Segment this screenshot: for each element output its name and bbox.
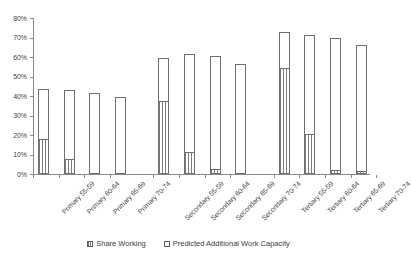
legend-swatch-hatched-icon [87, 241, 93, 247]
y-axis-tick-label: 70% [3, 34, 27, 41]
y-axis-tick-label: 30% [3, 112, 27, 119]
bar-group[interactable] [115, 97, 126, 174]
bar-group[interactable] [184, 54, 195, 174]
x-axis-tick-mark [325, 175, 326, 178]
bar-segment-share-working[interactable] [330, 170, 341, 174]
bar-group[interactable] [38, 89, 49, 174]
bar-segment-share-working[interactable] [184, 152, 195, 174]
bar-segment-share-working[interactable] [158, 101, 169, 174]
bar-group[interactable] [330, 38, 341, 174]
bar-group[interactable] [304, 35, 315, 174]
legend-item-label: Share Working [96, 240, 145, 248]
y-axis-tick-label: 40% [3, 93, 27, 100]
x-axis-tick-mark [153, 175, 154, 178]
chart-legend: Share WorkingPredicted Additional Work C… [0, 240, 377, 248]
legend-item-label: Predicted Additional Work Capacity [173, 240, 290, 248]
x-axis-tick-mark [110, 175, 111, 178]
bar-segment-predicted-additional-work-capacity[interactable] [235, 64, 246, 174]
y-axis-tick-label: 80% [3, 15, 27, 22]
bar-group[interactable] [89, 93, 100, 174]
bar-segment-share-working[interactable] [38, 139, 49, 174]
y-axis-tick-mark [30, 57, 33, 58]
x-axis-tick-mark [230, 175, 231, 178]
bar-segment-share-working[interactable] [304, 134, 315, 174]
y-axis-tick-label: 60% [3, 54, 27, 61]
bar-segment-predicted-additional-work-capacity[interactable] [330, 38, 341, 174]
bar-group[interactable] [158, 58, 169, 174]
y-axis-tick-label: 0% [3, 171, 27, 178]
y-axis-tick-label: 10% [3, 151, 27, 158]
y-axis-tick-mark [30, 155, 33, 156]
x-axis-tick-mark [351, 175, 352, 178]
y-axis-tick-mark [30, 18, 33, 19]
x-axis-tick-mark [84, 175, 85, 178]
bar-segment-predicted-additional-work-capacity[interactable] [89, 93, 100, 174]
y-axis-tick-mark [30, 96, 33, 97]
x-axis-tick-mark [33, 175, 34, 178]
y-axis-tick-label: 20% [3, 132, 27, 139]
bar-segment-share-working[interactable] [356, 171, 367, 174]
bar-group[interactable] [279, 32, 290, 174]
bar-segment-predicted-additional-work-capacity[interactable] [115, 97, 126, 174]
x-axis-tick-mark [205, 175, 206, 178]
x-axis-tick-mark [274, 175, 275, 178]
y-axis-tick-mark [30, 116, 33, 117]
bar-segment-share-working[interactable] [64, 159, 75, 174]
bar-segment-share-working[interactable] [279, 68, 290, 174]
legend-swatch-white-icon [164, 241, 170, 247]
y-axis-line [33, 18, 34, 174]
y-axis-tick-mark [30, 77, 33, 78]
x-axis-tick-mark [59, 175, 60, 178]
x-axis-tick-mark [376, 175, 377, 178]
bar-group[interactable] [235, 64, 246, 174]
x-axis-tick-mark [179, 175, 180, 178]
legend-item[interactable]: Share Working [87, 240, 145, 248]
bar-segment-predicted-additional-work-capacity[interactable] [356, 45, 367, 174]
x-axis-tick-mark [299, 175, 300, 178]
legend-item[interactable]: Predicted Additional Work Capacity [164, 240, 290, 248]
bar-group[interactable] [210, 56, 221, 174]
bar-group[interactable] [356, 45, 367, 174]
bar-group[interactable] [64, 90, 75, 174]
bar-segment-predicted-additional-work-capacity[interactable] [210, 56, 221, 174]
y-axis-tick-mark [30, 135, 33, 136]
y-axis-tick-label: 50% [3, 73, 27, 80]
bar-segment-share-working[interactable] [210, 169, 221, 174]
y-axis-tick-mark [30, 38, 33, 39]
